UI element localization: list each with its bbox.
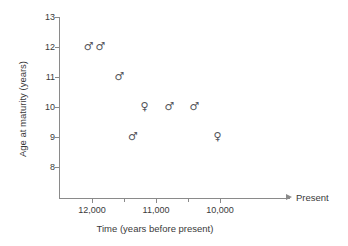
x-tick-label: 10,000: [190, 205, 250, 215]
data-point-male-icon: ♂: [187, 101, 201, 113]
x-axis-line: [59, 198, 290, 199]
x-tick-mark: [92, 199, 93, 203]
x-tick-mark: [156, 199, 157, 203]
data-point-female-icon: ♀: [210, 131, 224, 143]
y-tick-mark: [55, 47, 59, 48]
y-tick-mark: [55, 167, 59, 168]
y-tick-mark: [55, 17, 59, 18]
x-tick-mark-minor: [124, 199, 125, 202]
y-tick-mark: [55, 137, 59, 138]
y-tick-label: 8: [35, 163, 55, 172]
y-tick-label: 9: [35, 133, 55, 142]
x-axis-arrow-icon: [286, 194, 292, 200]
y-axis-line: [59, 17, 60, 199]
data-point-male-icon: ♂: [93, 41, 107, 53]
y-tick-mark: [55, 107, 59, 108]
data-point-male-icon: ♂: [113, 71, 127, 83]
y-tick-label: 13: [35, 13, 55, 22]
scatter-chart: Present Age at maturity (years) Time (ye…: [0, 0, 348, 246]
y-tick-label: 10: [35, 103, 55, 112]
data-point-male-icon: ♂: [126, 131, 140, 143]
x-tick-label: 11,000: [126, 205, 186, 215]
y-axis-title: Age at maturity (years): [18, 34, 28, 184]
y-tick-label: 12: [35, 43, 55, 52]
y-tick-label: 11: [35, 73, 55, 82]
x-axis-title: Time (years before present): [60, 223, 250, 234]
data-point-male-icon: ♂: [162, 101, 176, 113]
x-tick-label: 12,000: [62, 205, 122, 215]
x-tick-mark-minor: [188, 199, 189, 202]
y-tick-mark: [55, 77, 59, 78]
present-annotation: Present: [296, 192, 329, 203]
data-point-female-icon: ♀: [137, 101, 151, 113]
x-tick-mark: [220, 199, 221, 203]
